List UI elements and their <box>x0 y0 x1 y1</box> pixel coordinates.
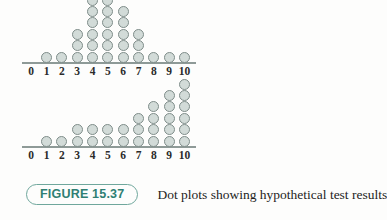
data-dot <box>179 90 190 101</box>
data-dot <box>118 29 129 40</box>
lower-tick-label: 10 <box>175 149 195 162</box>
data-dot <box>164 136 175 147</box>
upper-dot-stack <box>40 52 54 63</box>
data-dot <box>118 52 129 63</box>
data-dot <box>102 136 113 147</box>
data-dot <box>87 6 98 17</box>
data-dot <box>102 124 113 135</box>
upper-dot-stack <box>178 52 192 63</box>
figure-number-badge: FIGURE 15.37 <box>26 184 138 205</box>
data-dot <box>133 52 144 63</box>
data-dot <box>87 40 98 51</box>
lower-dot-stack <box>132 113 146 147</box>
figure-caption-text: Dot plots showing hypothetical test resu… <box>157 187 387 202</box>
data-dot <box>133 29 144 40</box>
lower-dot-plot-area <box>22 86 196 148</box>
data-dot <box>87 29 98 40</box>
data-dot <box>148 124 159 135</box>
data-dot <box>87 124 98 135</box>
upper-axis-tick-labels: 012345678910 <box>22 64 196 79</box>
data-dot <box>72 40 83 51</box>
data-dot <box>133 124 144 135</box>
lower-dot-plot: 012345678910 <box>22 86 196 163</box>
data-dot <box>41 136 52 147</box>
upper-dot-stack <box>116 6 130 63</box>
upper-dot-plot: 012345678910 <box>22 0 196 79</box>
data-dot <box>133 113 144 124</box>
data-dot <box>72 29 83 40</box>
data-dot <box>102 6 113 17</box>
data-dot <box>56 52 67 63</box>
upper-dot-stack <box>101 0 115 63</box>
data-dot <box>72 52 83 63</box>
lower-dot-stack <box>162 90 176 147</box>
upper-dot-plot-area <box>22 0 196 64</box>
lower-dot-stack <box>116 124 130 147</box>
data-dot <box>148 136 159 147</box>
data-dot <box>148 52 159 63</box>
data-dot <box>179 124 190 135</box>
data-dot <box>102 17 113 28</box>
upper-tick-label: 10 <box>175 65 195 78</box>
data-dot <box>87 0 98 6</box>
lower-dot-stack <box>101 124 115 147</box>
data-dot <box>133 40 144 51</box>
data-dot <box>164 52 175 63</box>
upper-dot-stack <box>55 52 69 63</box>
data-dot <box>41 52 52 63</box>
upper-dot-stack <box>162 52 176 63</box>
data-dot <box>164 113 175 124</box>
data-dot <box>164 101 175 112</box>
lower-dot-stack <box>40 136 54 147</box>
lower-dot-stack <box>70 124 84 147</box>
data-dot <box>118 17 129 28</box>
data-dot <box>102 0 113 6</box>
data-dot <box>133 136 144 147</box>
data-dot <box>164 124 175 135</box>
upper-dot-stack <box>70 29 84 63</box>
data-dot <box>72 124 83 135</box>
data-dot <box>148 101 159 112</box>
data-dot <box>148 113 159 124</box>
upper-dot-stack <box>86 0 100 63</box>
data-dot <box>179 79 190 90</box>
data-dot <box>87 17 98 28</box>
upper-dot-stack <box>132 29 146 63</box>
data-dot <box>118 136 129 147</box>
data-dot <box>179 52 190 63</box>
lower-dot-stack <box>86 124 100 147</box>
upper-dot-stack <box>147 52 161 63</box>
lower-dot-stack <box>147 101 161 147</box>
data-dot <box>118 6 129 17</box>
data-dot <box>102 40 113 51</box>
data-dot <box>118 40 129 51</box>
data-dot <box>164 90 175 101</box>
data-dot <box>179 113 190 124</box>
data-dot <box>72 136 83 147</box>
data-dot <box>102 52 113 63</box>
data-dot <box>102 29 113 40</box>
data-dot <box>179 136 190 147</box>
data-dot <box>179 101 190 112</box>
lower-dot-stack <box>178 79 192 147</box>
data-dot <box>87 136 98 147</box>
lower-axis-tick-labels: 012345678910 <box>22 148 196 163</box>
figure-caption-row: FIGURE 15.37 Dot plots showing hypotheti… <box>26 184 387 205</box>
data-dot <box>87 52 98 63</box>
data-dot <box>118 124 129 135</box>
data-dot <box>56 136 67 147</box>
lower-dot-stack <box>55 136 69 147</box>
